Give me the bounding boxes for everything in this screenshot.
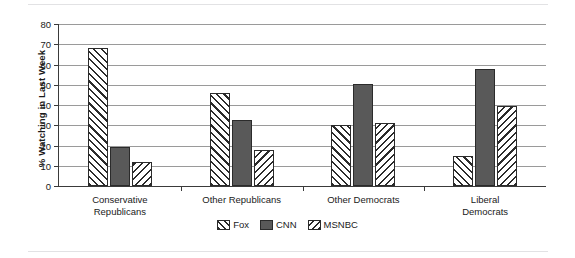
- category-divider: [303, 186, 304, 191]
- category-divider: [181, 186, 182, 191]
- legend-label-cnn: CNN: [276, 219, 297, 230]
- bar-cnn-0: [110, 147, 130, 186]
- y-tick-label: 10: [40, 160, 51, 171]
- legend-entry-cnn[interactable]: CNN: [260, 219, 297, 230]
- bar-msnbc-2: [375, 123, 395, 186]
- y-tick-label: 20: [40, 140, 51, 151]
- legend-swatch-msnbc: [308, 220, 321, 230]
- category-divider: [424, 186, 425, 191]
- bar-fox-2: [331, 125, 351, 186]
- bar-cnn-2: [353, 84, 373, 186]
- y-tick-label: 40: [40, 100, 51, 111]
- y-tick-label: 70: [40, 39, 51, 50]
- bar-cnn-3: [475, 69, 495, 186]
- bar-cnn-1: [232, 120, 252, 186]
- legend-swatch-fox: [217, 220, 230, 230]
- legend-entry-msnbc[interactable]: MSNBC: [308, 219, 358, 230]
- category-label-0: Conservative Republicans: [92, 194, 147, 217]
- legend-label-fox: Fox: [233, 219, 249, 230]
- category-label-2: Other Democrats: [327, 194, 399, 206]
- y-tick-label: 50: [40, 79, 51, 90]
- bar-fox-3: [453, 156, 473, 186]
- bar-chart-figure: % Watching in Last Week 0102030405060708…: [0, 0, 575, 258]
- legend-entry-fox[interactable]: Fox: [217, 219, 249, 230]
- y-tick-label: 30: [40, 120, 51, 131]
- category-label-1: Other Republicans: [202, 194, 281, 206]
- y-tick-label: 60: [40, 59, 51, 70]
- bar-msnbc-1: [254, 150, 274, 186]
- legend-label-msnbc: MSNBC: [324, 219, 358, 230]
- page-rule-bottom: [28, 251, 548, 252]
- bars-layer: [59, 24, 546, 186]
- category-label-3: Liberal Democrats: [455, 194, 516, 217]
- legend-swatch-cnn: [260, 220, 273, 230]
- bar-fox-0: [88, 48, 108, 186]
- bar-fox-1: [210, 93, 230, 186]
- bar-msnbc-0: [132, 162, 152, 186]
- plot-area: 01020304050607080 Conservative Republica…: [59, 24, 546, 186]
- y-tick-mark: [54, 186, 59, 187]
- page-rule-top: [28, 4, 548, 5]
- chart-legend: FoxCNNMSNBC: [0, 219, 575, 230]
- bar-msnbc-3: [497, 106, 517, 186]
- y-tick-label: 80: [40, 19, 51, 30]
- y-tick-label: 0: [46, 181, 51, 192]
